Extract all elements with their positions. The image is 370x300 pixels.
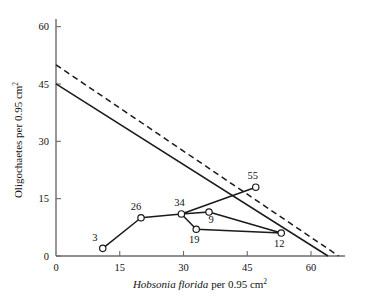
data-point-label: 55	[248, 170, 259, 181]
data-point-marker	[253, 184, 259, 190]
y-tick-label: 30	[39, 136, 50, 147]
data-point-label: 12	[274, 238, 285, 249]
x-axis-title-superscript: 2	[263, 277, 267, 286]
data-point-marker	[278, 230, 284, 236]
data-point-marker	[138, 215, 144, 221]
y-tick-label: 45	[39, 79, 50, 90]
x-axis-title-species: Hobsonia florida	[132, 278, 209, 290]
data-point-label: 34	[174, 197, 185, 208]
y-tick-label: 0	[44, 251, 49, 262]
data-point-label: 9	[208, 214, 213, 225]
x-tick-label: 0	[53, 262, 58, 273]
x-tick-label: 30	[178, 262, 189, 273]
y-axis-title-text: Oligochaetes per 0.95 cm	[12, 85, 24, 198]
data-point-marker	[178, 211, 184, 217]
y-axis-title-superscript: 2	[11, 82, 20, 86]
y-tick-label: 15	[39, 193, 50, 204]
x-tick-label: 60	[306, 262, 317, 273]
y-axis-title: Oligochaetes per 0.95 cm2	[11, 82, 24, 198]
data-point-marker	[193, 226, 199, 232]
x-axis-title-unit: per 0.95 cm	[208, 278, 263, 290]
data-point-label: 19	[189, 234, 200, 245]
data-point-marker	[100, 245, 106, 251]
data-point-label: 3	[92, 232, 97, 243]
x-tick-label: 45	[242, 262, 253, 273]
data-point-label: 26	[131, 201, 142, 212]
x-axis-title: Hobsonia florida per 0.95 cm2	[132, 277, 267, 290]
chart-figure: 015304560 015304560 326349191255 Hobsoni…	[0, 0, 370, 300]
x-tick-label: 15	[115, 262, 126, 273]
y-tick-label: 60	[39, 21, 50, 32]
